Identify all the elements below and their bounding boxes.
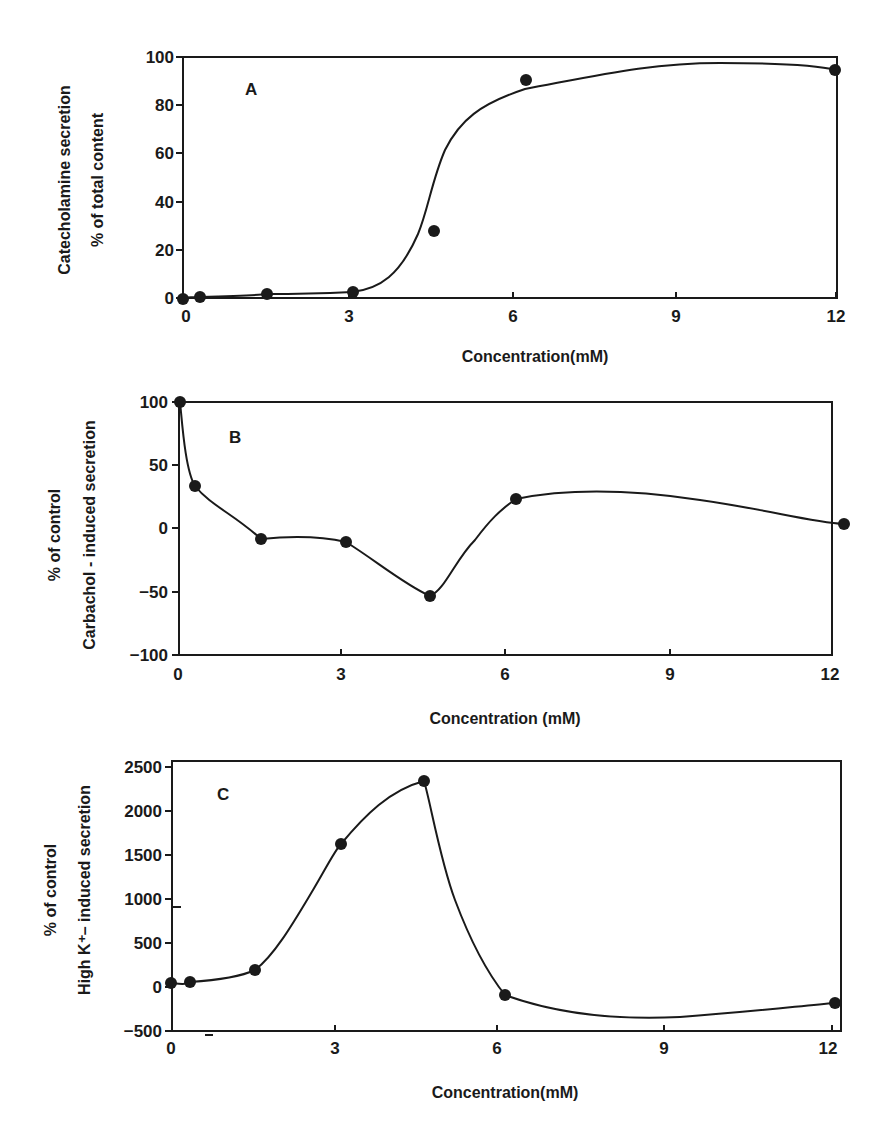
panel-a-points: [177, 64, 841, 305]
panel-b-xtick-label: 9: [665, 665, 674, 684]
panel-b: 100 50 0 −50 −100 0 3 6 9 12 Concentrati…: [46, 393, 850, 727]
panel-a-ytick-label: 80: [155, 96, 174, 115]
figure: 100 80 60 40 20 0 0 3 6 9 12 Concentrati…: [0, 0, 885, 1127]
panel-a-xtick-label: 9: [671, 307, 680, 326]
panel-b-x-axis-title: Concentration (mM): [429, 710, 580, 727]
panel-b-ytick-label: 0: [159, 519, 168, 538]
panel-b-ytick-label: 100: [140, 393, 168, 412]
panel-a-y-ticks: [176, 57, 183, 298]
panel-c-xtick-label: 12: [819, 1039, 838, 1058]
panel-c-y-axis-title-inner: High K⁺– induced secretion: [76, 785, 93, 995]
panel-a-xtick-label: 12: [827, 307, 846, 326]
panel-b-xtick-label: 12: [821, 665, 840, 684]
panel-a-y-axis-title-inner: % of total content: [89, 112, 106, 247]
panel-a-curve: [183, 63, 836, 298]
panel-c-ytick-label: 2000: [124, 802, 162, 821]
panel-c-stray-marks: [172, 907, 213, 1035]
panel-b-points: [174, 396, 850, 602]
panel-b-xtick-label: 0: [173, 665, 182, 684]
panel-c-curve: [171, 781, 835, 1018]
panel-c-letter: C: [217, 785, 229, 804]
panel-a-letter: A: [245, 80, 257, 99]
panel-a-ytick-label: 100: [146, 48, 174, 67]
panel-b-ytick-label: 50: [149, 456, 168, 475]
panel-c: 2500 2000 1500 1000 500 0 −500 0 3 6 9 1…: [42, 758, 841, 1101]
panel-c-x-axis-title: Concentration(mM): [432, 1084, 579, 1101]
panel-c-ytick-label: 0: [153, 978, 162, 997]
panel-a-ytick-label: 40: [155, 193, 174, 212]
panel-a-y-axis-title-outer: Catecholamine secretion: [56, 85, 73, 274]
panel-b-ytick-label: −100: [130, 646, 168, 665]
panel-a-ytick-label: 0: [165, 289, 174, 308]
panel-b-xtick-label: 6: [500, 665, 509, 684]
panel-c-ytick-label: 500: [134, 934, 162, 953]
panel-c-xtick-label: 6: [492, 1039, 501, 1058]
panel-c-xtick-label: 9: [659, 1039, 668, 1058]
panel-c-ytick-label: 2500: [124, 758, 162, 777]
panel-b-xtick-label: 3: [336, 665, 345, 684]
panel-b-frame: [179, 402, 832, 655]
panel-a-ytick-label: 20: [155, 241, 174, 260]
panel-c-y-axis-title-outer: % of control: [42, 844, 59, 936]
panel-a: 100 80 60 40 20 0 0 3 6 9 12 Concentrati…: [56, 48, 845, 365]
panel-a-ytick-label: 60: [155, 144, 174, 163]
panel-c-ytick-label: 1000: [124, 890, 162, 909]
panel-b-ytick-label: −50: [139, 583, 168, 602]
panel-b-letter: B: [229, 428, 241, 447]
panel-c-y-ticks: [165, 767, 172, 1031]
panel-a-xtick-label: 6: [508, 307, 517, 326]
panel-c-xtick-label: 0: [166, 1039, 175, 1058]
panel-b-y-axis-title-outer: % of control: [46, 489, 63, 581]
panel-a-frame: [183, 57, 837, 298]
panel-c-points: [165, 775, 841, 1009]
panel-a-x-axis-title: Concentration(mM): [462, 348, 609, 365]
panel-c-xtick-label: 3: [330, 1039, 339, 1058]
panel-b-y-axis-title-inner: Carbachol - induced secretion: [81, 420, 98, 649]
panel-a-xtick-label: 3: [344, 307, 353, 326]
panel-c-ytick-label: −500: [124, 1022, 162, 1041]
panel-a-xtick-label: 0: [181, 307, 190, 326]
panel-c-ytick-label: 1500: [124, 846, 162, 865]
panel-b-y-ticks: [172, 402, 179, 655]
